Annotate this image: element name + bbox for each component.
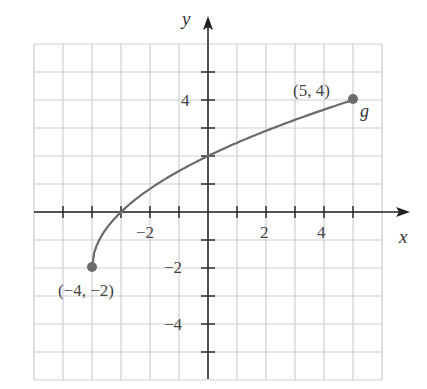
function-name-label: g — [360, 101, 369, 121]
y-tick-label-4: 4 — [181, 91, 190, 110]
x-tick-label-neg2: −2 — [136, 223, 154, 242]
end-point-label: (5, 4) — [293, 81, 330, 100]
y-tick-label-neg2: −2 — [164, 258, 182, 277]
x-tick-label-4: 4 — [317, 223, 326, 242]
graph: x y −2 2 4 4 −2 −4 (−4, −2) (5, 4) g — [0, 0, 427, 389]
x-tick-label-2: 2 — [260, 223, 269, 242]
end-point — [348, 94, 358, 104]
y-axis-label: y — [180, 8, 191, 29]
x-axis-label: x — [398, 226, 408, 247]
start-point-label: (−4, −2) — [58, 281, 114, 300]
start-point — [87, 262, 97, 272]
y-tick-label-neg4: −4 — [164, 315, 183, 334]
